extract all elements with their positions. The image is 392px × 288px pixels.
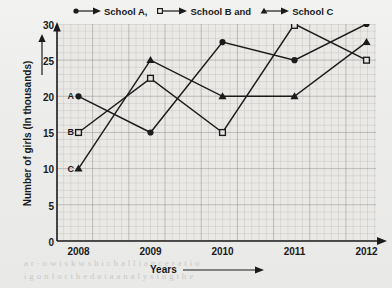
x-tick: 2011 bbox=[284, 246, 306, 257]
x-axis-label-group: Years bbox=[150, 264, 265, 275]
y-tick: 5 bbox=[48, 200, 54, 211]
series-markers-school-a bbox=[75, 24, 369, 136]
legend-label-school-b: School B and bbox=[190, 6, 251, 17]
legend-item-school-c: School C bbox=[260, 5, 333, 17]
x-tick: 2008 bbox=[67, 246, 89, 257]
filled-circle-marker-icon bbox=[72, 5, 102, 17]
y-tick: 15 bbox=[43, 128, 54, 139]
y-tick: 30 bbox=[43, 19, 54, 30]
legend-item-school-b: School B and bbox=[156, 5, 251, 17]
x-tick: 2009 bbox=[139, 246, 161, 257]
x-axis-label: Years bbox=[150, 264, 177, 275]
y-axis-label-wrapper: Number of girls (In thousands) bbox=[10, 20, 30, 240]
filled-triangle-marker-icon bbox=[260, 5, 290, 17]
point-label-c: C bbox=[68, 164, 75, 174]
y-axis-ticks: 30 25 20 15 10 5 0 bbox=[28, 24, 54, 241]
y-tick: 0 bbox=[48, 236, 54, 247]
x-axis-direction-arrow-icon bbox=[181, 265, 265, 275]
point-label-a: A bbox=[68, 91, 75, 101]
y-tick: 10 bbox=[43, 164, 54, 175]
x-tick: 2010 bbox=[211, 246, 233, 257]
chart-legend: School A, School B and School C bbox=[72, 5, 333, 17]
chart-series-svg bbox=[57, 24, 376, 241]
series-line-school-c bbox=[79, 42, 367, 169]
legend-item-school-a: School A, bbox=[72, 5, 147, 17]
legend-label-school-a: School A, bbox=[104, 6, 147, 17]
chart-plot-area: A B C bbox=[57, 24, 376, 241]
series-markers-school-c bbox=[74, 38, 370, 172]
x-tick: 2012 bbox=[355, 246, 377, 257]
y-tick: 20 bbox=[43, 92, 54, 103]
legend-label-school-c: School C bbox=[292, 6, 333, 17]
y-tick: 25 bbox=[43, 55, 54, 66]
x-axis-ticks: 2008 2009 2010 2011 2012 bbox=[57, 246, 376, 260]
point-label-b: B bbox=[68, 127, 75, 137]
open-square-marker-icon bbox=[156, 5, 188, 17]
